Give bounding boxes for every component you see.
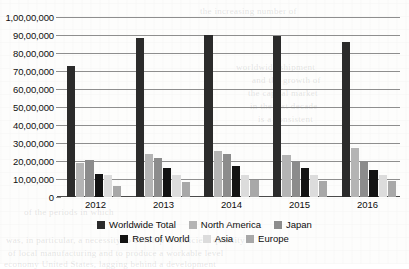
bar <box>351 148 359 198</box>
y-axis-tick-label: 10,00,000 <box>0 174 54 185</box>
ghost-text-line: the increasing number of <box>200 6 297 16</box>
bar <box>95 174 103 197</box>
legend-item: Asia <box>203 233 233 244</box>
y-axis-tick-label: 50,00,000 <box>0 102 54 113</box>
bar <box>214 151 222 197</box>
bar <box>85 160 93 197</box>
bar <box>379 175 387 197</box>
legend-swatch-icon <box>274 221 282 229</box>
bar <box>310 175 318 197</box>
y-axis-tick-label: 70,00,000 <box>0 66 54 77</box>
legend-label: Rest of World <box>132 233 189 244</box>
chart-legend: Worldwide TotalNorth AmericaJapanRest of… <box>0 219 409 247</box>
legend-label: Europe <box>258 233 289 244</box>
bar <box>273 36 281 197</box>
bar <box>369 170 377 197</box>
legend-label: Worldwide Total <box>109 219 176 230</box>
bar <box>67 66 75 197</box>
bar-group <box>204 17 258 197</box>
bar <box>360 161 368 197</box>
legend-label: Japan <box>286 219 312 230</box>
legend-row: Rest of WorldAsiaEurope <box>0 233 409 244</box>
bar <box>241 175 249 198</box>
ghost-text-line: economy United States, lagging behind a … <box>4 259 216 269</box>
legend-swatch-icon <box>97 221 105 229</box>
bar <box>223 154 231 197</box>
bar <box>136 38 144 197</box>
legend-item: Japan <box>274 219 312 230</box>
x-axis-tick-label: 2013 <box>135 199 192 210</box>
legend-label: North America <box>201 219 261 230</box>
legend-swatch-icon <box>246 235 254 243</box>
bar <box>342 42 350 197</box>
bar-groups <box>61 17 400 197</box>
bar <box>292 161 300 197</box>
y-axis-tick-label: 30,00,000 <box>0 138 54 149</box>
bar <box>113 186 121 197</box>
legend-label: Asia <box>215 233 233 244</box>
bar <box>204 35 212 197</box>
x-axis-tick-label: 2012 <box>67 199 124 210</box>
y-axis-tick-label: 1,00,00,000 <box>0 12 54 23</box>
bar <box>388 181 396 197</box>
bar-group <box>136 17 190 197</box>
y-axis-tick-label: 20,00,000 <box>0 156 54 167</box>
bar <box>163 168 171 197</box>
x-axis-tick-label: 2016 <box>339 199 396 210</box>
legend-swatch-icon <box>120 235 128 243</box>
legend-item: Worldwide Total <box>97 219 176 230</box>
legend-swatch-icon <box>203 235 211 243</box>
bar <box>282 155 290 197</box>
bar <box>182 182 190 197</box>
y-axis-tick-label: 40,00,000 <box>0 120 54 131</box>
bar <box>250 180 258 197</box>
ghost-text-line: of local manufacturing and to produce a … <box>8 248 224 258</box>
bar <box>76 163 84 197</box>
x-axis-tick-label: 2015 <box>271 199 328 210</box>
legend-item: Europe <box>246 233 289 244</box>
bar-group <box>273 17 327 197</box>
bar <box>301 168 309 197</box>
legend-row: Worldwide TotalNorth AmericaJapan <box>0 219 409 230</box>
y-axis-tick-label: 90,00,000 <box>0 30 54 41</box>
y-axis-tick-mark <box>56 197 61 198</box>
plot-area <box>61 17 400 197</box>
legend-item: North America <box>189 219 261 230</box>
y-axis-tick-label: 80,00,000 <box>0 48 54 59</box>
bar <box>319 181 327 197</box>
x-axis-tick-label: 2014 <box>203 199 260 210</box>
y-axis-tick-label: 60,00,000 <box>0 84 54 95</box>
bar <box>172 175 180 197</box>
bar <box>154 158 162 197</box>
bar-group <box>67 17 121 197</box>
bar <box>104 175 112 197</box>
x-axis-tick-labels: 20122013201420152016 <box>61 199 400 210</box>
bar <box>232 166 240 198</box>
legend-swatch-icon <box>189 221 197 229</box>
legend-item: Rest of World <box>120 233 189 244</box>
y-axis-tick-label: 0 <box>0 192 54 203</box>
bar-group <box>342 17 396 197</box>
bar <box>145 154 153 197</box>
